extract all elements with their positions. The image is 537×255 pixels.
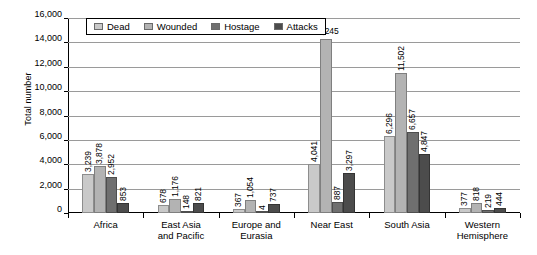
legend-swatch-icon: [94, 23, 103, 30]
bar-value-label: 3,297: [345, 150, 354, 171]
bar: [158, 205, 170, 213]
x-axis-tick: [445, 213, 446, 218]
x-axis-tick: [294, 213, 295, 218]
bar-value-label: 1,054: [246, 177, 255, 198]
y-axis-tick: [64, 140, 68, 141]
x-axis-label-line: Western: [445, 219, 520, 230]
y-axis-label: 12,000: [2, 59, 62, 68]
legend-label: Attacks: [287, 22, 318, 32]
x-axis-tick: [369, 213, 370, 218]
bar: [320, 39, 332, 213]
bar-chart: Total number 3,2393,8782,9528536781,1761…: [0, 0, 537, 255]
x-axis-category-label: East Asiaand Pacific: [143, 219, 218, 241]
legend-item-attacks[interactable]: Attacks: [274, 22, 318, 32]
bar: [395, 73, 407, 213]
bar: [459, 208, 471, 213]
x-axis-label-line: Europe and: [219, 219, 294, 230]
bar-value-label: 3,239: [84, 151, 93, 172]
y-axis-label: 0: [2, 205, 62, 214]
legend-label: Dead: [107, 22, 130, 32]
bar: [384, 136, 396, 213]
y-axis-tick: [64, 18, 68, 19]
bar-value-label: 2,952: [107, 154, 116, 175]
legend-label: Hostage: [224, 22, 259, 32]
x-axis-label-line: East Asia: [143, 219, 218, 230]
bar: [308, 164, 320, 213]
bar: [332, 202, 344, 213]
plot-area: 3,2393,8782,9528536781,1761488213671,054…: [68, 18, 520, 213]
y-axis-title: Total number: [23, 24, 33, 174]
y-axis-label: 4,000: [2, 156, 62, 165]
legend-item-wounded[interactable]: Wounded: [144, 22, 198, 32]
y-axis-label: 2,000: [2, 181, 62, 190]
x-axis-category-label: WesternHemisphere: [445, 219, 520, 241]
bar-value-label: 4,847: [420, 131, 429, 152]
y-axis-tick: [64, 42, 68, 43]
bar: [181, 211, 193, 213]
legend-item-dead[interactable]: Dead: [94, 22, 130, 32]
bar-value-label: 367: [234, 193, 243, 207]
legend-swatch-icon: [274, 23, 283, 30]
y-axis-tick: [64, 189, 68, 190]
bar-value-label: 148: [182, 195, 191, 209]
y-axis-label: 8,000: [2, 108, 62, 117]
y-axis-tick: [64, 116, 68, 117]
bar: [268, 204, 280, 213]
x-axis-tick: [219, 213, 220, 218]
bar: [419, 154, 431, 213]
bar-value-label: 1,176: [171, 176, 180, 197]
y-axis-tick: [64, 67, 68, 68]
x-axis-tick: [520, 213, 521, 218]
gridline: [68, 164, 520, 165]
bar: [106, 177, 118, 213]
bar-value-label: 219: [484, 194, 493, 208]
bar-value-label: 377: [460, 193, 469, 207]
x-axis-category-label: South Asia: [369, 219, 444, 230]
legend-item-hostage[interactable]: Hostage: [211, 22, 259, 32]
y-axis-label: 16,000: [2, 10, 62, 19]
gridline: [68, 42, 520, 43]
x-axis-category-label: Europe andEurasia: [219, 219, 294, 241]
x-axis-tick: [68, 213, 69, 218]
bar: [233, 209, 245, 213]
x-axis-category-label: Near East: [294, 219, 369, 230]
bar: [343, 173, 355, 213]
gridline: [68, 91, 520, 92]
bar: [482, 210, 494, 213]
bar: [193, 203, 205, 213]
bar-value-label: 4,041: [310, 141, 319, 162]
bar: [94, 166, 106, 213]
bar: [117, 203, 129, 213]
x-axis-label-line: South Asia: [369, 219, 444, 230]
gridline: [68, 116, 520, 117]
gridline: [68, 140, 520, 141]
gridline: [68, 189, 520, 190]
legend-swatch-icon: [144, 23, 153, 30]
bar: [471, 203, 483, 213]
bar-value-label: 821: [194, 187, 203, 201]
bar-value-label: 6,657: [408, 109, 417, 130]
legend-label: Wounded: [157, 22, 198, 32]
bar-value-label: 887: [333, 186, 342, 200]
bar: [256, 211, 268, 213]
x-axis-tick: [143, 213, 144, 218]
bar-value-label: 444: [495, 192, 504, 206]
x-axis-label-line: and Pacific: [143, 230, 218, 241]
y-axis-label: 14,000: [2, 34, 62, 43]
bar-value-label: 737: [269, 188, 278, 202]
bar: [169, 199, 181, 213]
x-axis-label-line: Near East: [294, 219, 369, 230]
x-axis-label-line: Hemisphere: [445, 230, 520, 241]
bar-value-label: 6,296: [385, 114, 394, 135]
bar-value-label: 4: [258, 205, 267, 210]
y-axis-label: 6,000: [2, 132, 62, 141]
x-axis-label-line: Eurasia: [219, 230, 294, 241]
x-axis-label-line: Africa: [68, 219, 143, 230]
y-axis-tick: [64, 164, 68, 165]
bar-value-label: 3,878: [95, 143, 104, 164]
bar: [245, 200, 257, 213]
gridline: [68, 67, 520, 68]
legend-swatch-icon: [211, 23, 220, 30]
bar: [82, 174, 94, 213]
bar: [494, 208, 506, 213]
